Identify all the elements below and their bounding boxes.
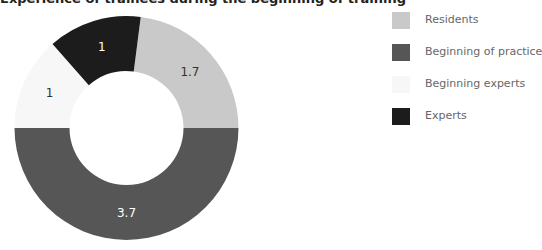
legend-label: Beginning experts [425, 77, 525, 90]
legend-swatch [392, 12, 410, 29]
slice-value-label: 1 [98, 40, 106, 54]
donut-chart: 1.73.711 [0, 0, 260, 250]
legend-swatch [392, 108, 410, 125]
legend-item-experts: Experts [392, 108, 522, 125]
legend-swatch [392, 44, 410, 61]
legend-item-beginning-experts: Beginning experts [392, 76, 522, 93]
slice-value-label: 1 [46, 86, 54, 100]
donut-slice-beginning-of-practice [14, 128, 238, 240]
legend-label: Beginning of practice [425, 45, 542, 58]
legend-label: Residents [425, 13, 478, 26]
slice-value-label: 1.7 [180, 65, 199, 79]
legend-item-beginning-of-practice: Beginning of practice [392, 44, 522, 61]
legend-item-residents: Residents [392, 12, 522, 29]
slice-value-label: 3.7 [117, 206, 136, 220]
legend-label: Experts [425, 109, 467, 122]
legend-swatch [392, 76, 410, 93]
